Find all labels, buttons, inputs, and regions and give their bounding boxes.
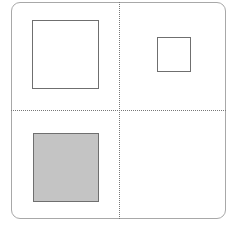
large-square-top-left (32, 20, 99, 89)
horizontal-divider (11, 110, 226, 111)
small-square-top-right (157, 37, 191, 72)
filled-square-bottom-left (33, 133, 99, 202)
